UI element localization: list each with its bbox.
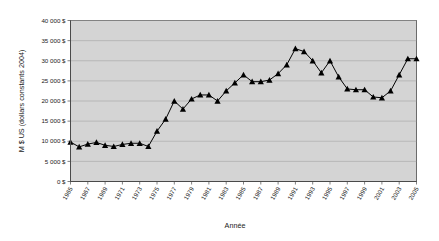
y-axis-tick-label: 5 000 $ [45,158,66,165]
chart-container: 0 $5 000 $10 000 $15 000 $20 000 $25 000… [0,0,439,241]
y-axis-tick-label: 10 000 $ [41,137,66,144]
y-axis-tick-label: 0 $ [57,178,66,185]
y-axis-tick-label: 30 000 $ [41,57,66,64]
y-axis-tick-label: 35 000 $ [41,37,66,44]
y-axis-tick-label: 20 000 $ [41,97,66,104]
line-chart: 0 $5 000 $10 000 $15 000 $20 000 $25 000… [0,0,439,241]
y-axis-tick-label: 40 000 $ [41,17,66,24]
y-axis-tick-labels: 0 $5 000 $10 000 $15 000 $20 000 $25 000… [41,17,66,185]
y-axis-title: M $ US (dollars constants 2004) [17,50,26,153]
y-axis-tick-label: 25 000 $ [41,77,66,84]
y-axis-tick-label: 15 000 $ [41,117,66,124]
x-axis-title: Année [225,221,246,230]
